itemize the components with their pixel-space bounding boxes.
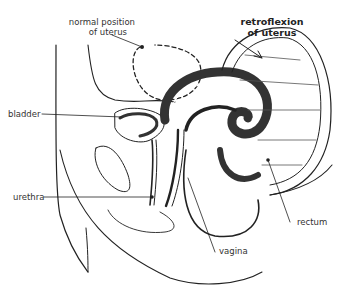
retroflexed-uterus <box>164 72 267 134</box>
peritoneum-line <box>88 45 175 102</box>
anatomy-diagram: normal position of uterus retroflexion o… <box>0 0 338 291</box>
pelvic-floor <box>108 210 174 233</box>
label-line: retroflexion <box>232 16 312 27</box>
pubic-bone <box>95 146 130 192</box>
label-normal-position: normal position of uterus <box>55 17 135 37</box>
leader-vagina <box>188 178 215 252</box>
marker-dot <box>150 195 154 199</box>
label-bladder: bladder <box>8 109 40 119</box>
leader-bladder <box>42 114 122 117</box>
label-urethra: urethra <box>13 192 44 202</box>
label-vagina: vagina <box>219 246 248 256</box>
marker-dot <box>266 158 270 162</box>
colon-haustra <box>240 55 320 165</box>
label-line: normal position <box>55 17 135 27</box>
label-rectum: rectum <box>297 217 327 227</box>
marker-dot <box>140 45 144 49</box>
label-line: of uterus <box>232 27 312 38</box>
abdominal-wall-outline <box>56 45 88 272</box>
urethra-tube-inner <box>154 140 157 205</box>
label-line: of uterus <box>55 27 135 37</box>
body-contour <box>86 228 88 272</box>
anatomy-illustration <box>0 0 338 291</box>
rectum-wall <box>220 150 258 179</box>
uterine-cavity <box>186 107 235 130</box>
bladder-wall <box>120 114 157 136</box>
perineum-outline <box>60 150 262 284</box>
label-retroflexion: retroflexion of uterus <box>232 16 312 38</box>
vagina-canal <box>166 130 178 206</box>
